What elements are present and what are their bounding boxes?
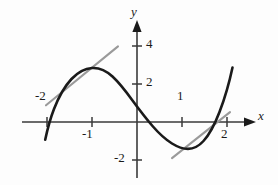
y-tick-label-2: 2 (146, 74, 153, 90)
cubic-curve (45, 68, 232, 149)
x-tick-label-1: 1 (177, 88, 184, 104)
graph-figure: y x -2 -1 1 2 4 2 -2 (0, 0, 278, 185)
y-axis-label: y (131, 4, 137, 20)
x-axis-arrowhead (244, 117, 256, 126)
y-tick-label-4: 4 (146, 36, 153, 52)
tangent-line-left (46, 46, 118, 105)
x-tick-label--2: -2 (35, 88, 46, 104)
x-tick-label-2: 2 (221, 126, 228, 142)
x-tick-label--1: -1 (82, 126, 93, 142)
x-axis-label: x (258, 108, 264, 124)
y-axis-arrowhead (132, 20, 141, 32)
y-tick-label--2: -2 (114, 150, 125, 166)
